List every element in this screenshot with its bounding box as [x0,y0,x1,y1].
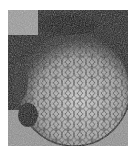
sphere-pattern-graphic [8,10,128,146]
photo-geodesic-sphere [8,10,128,146]
